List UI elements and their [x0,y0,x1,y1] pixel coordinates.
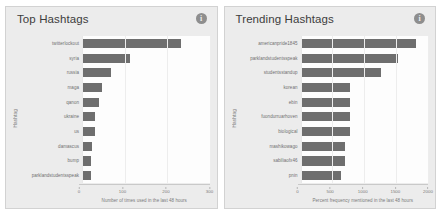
bar-category-label: ebin [240,100,301,105]
x-axis-tick: 1500 [390,185,400,194]
chart-trending-hashtags: Hashtag americanpride1845parklandstudent… [232,33,429,204]
bar-track [301,51,429,66]
bar-row: maga [21,80,210,95]
bar-category-label: qanon [21,100,82,105]
bar[interactable] [82,54,130,63]
bar-row: twitterlockout [21,36,210,51]
gridline [428,139,429,154]
bar-category-label: russia [21,70,82,75]
bar[interactable] [82,112,95,121]
bar[interactable] [82,83,102,92]
bar[interactable] [301,54,398,63]
bar-category-label: sabiliaofx46 [240,158,301,163]
gridline [332,95,333,110]
bar[interactable] [82,156,91,165]
gridline [364,65,365,80]
gridline [167,110,168,125]
gridline [167,65,168,80]
gridline [167,36,168,51]
info-icon[interactable]: i [414,13,425,24]
bar-track [82,80,210,95]
gridline [364,80,365,95]
gridline [364,124,365,139]
panel-top-hashtags: Top Hashtags i Hashtag twitterlockoutsyr… [5,6,218,209]
gridline [396,51,397,66]
bar[interactable] [82,142,92,151]
panel-header: Trending Hashtags i [232,13,429,33]
bar-row: parklandstudentsspeak [21,168,210,183]
page-title: Top Hashtags [13,13,89,25]
bar-category-label: americanpride1845 [240,41,301,46]
gridline [364,110,365,125]
bar[interactable] [301,127,350,136]
bar-row: damascus [21,139,210,154]
bar-track [82,110,210,125]
bar-rows: twitterlockoutsyriarussiamagaqanonukrain… [21,33,210,184]
bar[interactable] [301,112,350,121]
gridline [396,95,397,110]
gridline [428,95,429,110]
bar-row: russia [21,65,210,80]
panel-trending-hashtags: Trending Hashtags i Hashtag americanprid… [224,6,437,209]
bar[interactable] [301,98,350,107]
gridline [428,36,429,51]
gridline [396,139,397,154]
bar[interactable] [301,142,346,151]
bar-category-label: maga [21,85,82,90]
gridline [210,36,211,51]
bar[interactable] [301,68,382,77]
gridline [167,168,168,183]
gridline [396,36,397,51]
bar[interactable] [82,127,95,136]
bar[interactable] [82,39,181,48]
info-icon[interactable]: i [196,13,207,24]
bar[interactable] [301,171,342,180]
gridline [332,154,333,169]
gridline [428,110,429,125]
bar-track [82,124,210,139]
x-axis-tick: 300 [206,185,213,194]
gridline [364,36,365,51]
bar-track [301,36,429,51]
bar[interactable] [82,171,91,180]
gridline [125,80,126,95]
gridline [364,154,365,169]
bar-category-label: studentsstandup [240,70,301,75]
chart-inner: twitterlockoutsyriarussiamagaqanonukrain… [21,33,210,204]
x-axis-tick: 100 [119,185,126,194]
gridline [332,51,333,66]
gridline [428,168,429,183]
gridline [396,168,397,183]
gridline [332,65,333,80]
bar[interactable] [301,83,350,92]
bar-category-label: pnin [240,173,301,178]
hashtag-dashboard: Top Hashtags i Hashtag twitterlockoutsyr… [0,0,441,215]
gridline [167,80,168,95]
bar-category-label: korean [240,85,301,90]
x-axis-line: 0500100015002000 [298,184,429,197]
bar-row: syria [21,51,210,66]
bar[interactable] [82,68,111,77]
bar-rows: americanpride1845parklandstudentsspeakst… [240,33,429,184]
bar-track [301,124,429,139]
gridline [428,80,429,95]
bar[interactable] [82,98,99,107]
bar-category-label: syria [21,56,82,61]
gridline [332,36,333,51]
gridline [332,110,333,125]
bar-track [301,110,429,125]
gridline [125,154,126,169]
bar[interactable] [301,156,346,165]
page-title: Trending Hashtags [232,13,334,25]
gridline [428,65,429,80]
bar-track [301,65,429,80]
gridline [396,110,397,125]
bar-row: pnin [240,168,429,183]
bar[interactable] [301,39,416,48]
gridline [210,139,211,154]
chart-top-hashtags: Hashtag twitterlockoutsyriarussiamagaqan… [13,33,210,204]
gridline [125,110,126,125]
bar-track [82,51,210,66]
bar-row: parklandstudentsspeak [240,51,429,66]
gridline [125,65,126,80]
